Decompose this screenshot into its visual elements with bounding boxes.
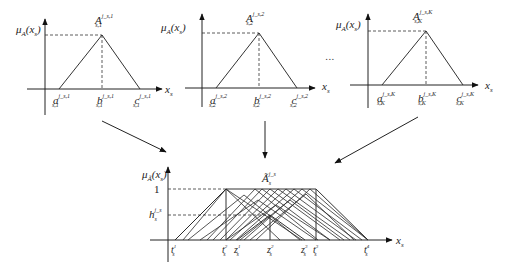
diagram-canvas: μA(xs) Aj_s,1s,1 aj_s,1s,1 bj_s,1s,1 cj_…: [0, 0, 505, 276]
level-h-label: hj_ss: [149, 207, 162, 222]
c-tick-label: cj_s,1s,1: [133, 93, 151, 108]
a-tick-label: aj_s,1s,1: [52, 93, 70, 108]
b-tick-label: bj_s,2s,2: [253, 93, 271, 108]
y-axis-label: μÃ(xs): [141, 168, 167, 183]
c-tick-label: cj_s,2s,2: [290, 93, 308, 108]
b-tick-label: bj_s,1s,1: [96, 93, 114, 108]
ellipsis: ...: [325, 51, 335, 62]
level-one-label: 1: [154, 183, 160, 195]
triangular-membership-function: [59, 35, 140, 89]
tick-label-t3: t3s: [313, 244, 319, 257]
x-axis-label: xs: [484, 79, 493, 94]
membership-panel-2: μA(xs) Aj_s,2s,2 aj_s,2s,2 bj_s,2s,2 cj_…: [160, 11, 330, 108]
x-axis-label: xs: [164, 83, 173, 98]
x-axis-label: xs: [395, 234, 404, 249]
arrow-from-panel-k: [335, 117, 418, 163]
membership-panel-1: μA(xs) Aj_s,1s,1 aj_s,1s,1 bj_s,1s,1 cj_…: [15, 13, 173, 115]
a-tick-label: aj_s,2s,2: [209, 93, 227, 108]
tick-label-z1: z1s: [233, 244, 240, 257]
x-axis-label: xs: [321, 80, 330, 95]
c-tick-label: cj_s,Ks,K: [456, 91, 475, 106]
embedded-membership-functions: [175, 189, 368, 240]
triangular-membership-function: [216, 33, 297, 88]
y-axis-label: μA(xs): [335, 18, 361, 33]
membership-panel-k: μA(xs) Aj_s,Ks,K aj_s,Ks,K bj_s,Ks,K cj_…: [335, 9, 493, 108]
apex-label: Aj_s,Ks,K: [412, 9, 433, 24]
tick-label-z2: z2s: [266, 244, 274, 257]
tick-label-t2: t2s: [222, 244, 228, 257]
tick-label-t1: t1s: [171, 244, 176, 257]
aggregated-type2-panel: μÃ(xs) Ãj_ss 1 hj_ss xs t1s t2s z1s z2s …: [141, 167, 404, 262]
triangular-membership-function: [382, 31, 463, 85]
y-axis-label: μA(xs): [15, 23, 41, 38]
a-tick-label: aj_s,Ks,K: [377, 91, 396, 106]
tick-label-t4: t4s: [364, 244, 370, 257]
b-tick-label: bj_s,Ks,K: [418, 91, 437, 106]
y-axis-label: μA(xs): [160, 21, 186, 36]
apex-label: Aj_s,1s,1: [94, 13, 113, 28]
apex-label: Aj_s,2s,2: [245, 11, 264, 26]
arrow-from-panel-1: [102, 121, 166, 152]
tick-label-z3: z3s: [300, 244, 308, 257]
title-label: Ãj_ss: [261, 171, 276, 186]
